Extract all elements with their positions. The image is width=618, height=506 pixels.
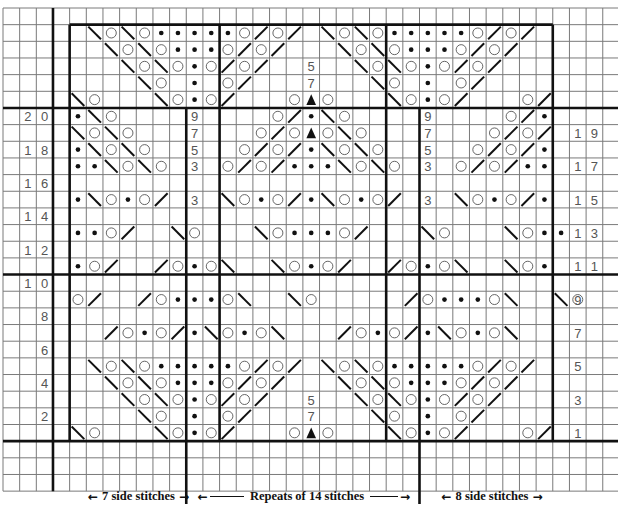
left-slant-decrease-icon [322,27,335,40]
left-slant-decrease-icon [72,127,85,140]
yarn-over-icon [106,111,116,121]
left-slant-decrease-icon [105,160,118,173]
purl-dot-icon [209,297,214,302]
left-slant-decrease-icon [455,260,468,273]
purl-dot-icon [475,297,480,302]
row-number-label: 5 [574,359,581,374]
right-slant-decrease-icon [238,43,251,56]
yarn-over-icon [140,195,150,205]
yarn-over-icon [340,228,350,238]
purl-dot-icon [309,197,314,202]
yarn-over-icon [439,61,449,71]
repeat-marker-number: 3 [191,193,198,208]
purl-dot-icon [409,31,414,36]
yarn-over-icon [323,95,333,105]
knitting-chart: 5799775533335720181614121086421917151311… [0,0,618,506]
yarn-over-icon [256,328,266,338]
right-slant-decrease-icon [272,127,285,140]
purl-dot-icon [425,397,430,402]
purl-dot-icon [326,231,331,236]
yarn-over-icon [140,145,150,155]
left-slant-decrease-icon [222,260,235,273]
left-slant-decrease-icon [72,93,85,106]
row-number-label: 1 [574,126,581,141]
yarn-over-icon [506,195,516,205]
repeat-marker-number: 5 [308,393,315,408]
right-slant-decrease-icon [488,60,501,73]
yarn-over-icon [140,28,150,38]
right-slant-decrease-icon [255,393,268,406]
yarn-over-icon [123,161,133,171]
row-number-label: 1 [24,243,31,258]
right-slant-decrease-icon [505,127,518,140]
yarn-over-icon [156,378,166,388]
yarn-over-icon [489,295,499,305]
right-slant-decrease-icon [288,27,301,40]
arrow-shaft [370,496,398,497]
yarn-over-icon [156,78,166,88]
yarn-over-icon [473,195,483,205]
right-slant-decrease-icon [222,93,235,106]
yarn-over-icon [240,145,250,155]
right-slant-decrease-icon [105,327,118,340]
purl-dot-icon [442,381,447,386]
right-slant-decrease-icon [88,293,101,306]
right-slant-decrease-icon [521,110,534,123]
left-slant-decrease-icon [272,327,285,340]
right-slant-decrease-icon [471,160,484,173]
yarn-over-icon [206,261,216,271]
purl-dot-icon [226,364,231,369]
right-slant-decrease-icon [521,143,534,156]
arrow-right-icon: → [179,490,189,504]
right-slant-decrease-icon [538,93,551,106]
row-number-label: 2 [41,409,48,424]
row-number-label: 2 [41,243,48,258]
right-slant-decrease-icon [222,427,235,440]
left-slant-decrease-icon [138,160,151,173]
row-number-label: 7 [574,326,581,341]
left-slant-decrease-icon [322,110,335,123]
yarn-over-icon [290,428,300,438]
yarn-over-icon [273,28,283,38]
right-slant-decrease-icon [488,393,501,406]
right-slant-decrease-icon [155,260,168,273]
right-slant-decrease-icon [488,360,501,373]
row-number-label: 0 [41,276,48,291]
left-slant-decrease-icon [388,427,401,440]
left-slant-decrease-icon [322,360,335,373]
left-slant-decrease-icon [505,327,518,340]
left-slant-decrease-icon [338,377,351,390]
right-slant-decrease-icon [288,110,301,123]
yarn-over-icon [206,61,216,71]
right-slant-decrease-icon [172,327,185,340]
arrow-left-icon: ← [441,490,451,504]
purl-dot-icon [542,164,547,169]
left-slant-decrease-icon [355,393,368,406]
row-number-label: 1 [24,176,31,191]
yarn-over-icon [156,328,166,338]
left-slant-decrease-icon [555,293,568,306]
arrow-right-icon: → [400,490,410,504]
left-slant-decrease-icon [122,360,135,373]
row-number-label: 9 [574,293,581,308]
yarn-over-icon [190,228,200,238]
caption-side-stitches-right: ← 8 side stitches → [422,487,562,506]
right-slant-decrease-icon [222,60,235,73]
purl-dot-icon [209,31,214,36]
repeat-marker-number: 9 [191,109,198,124]
purl-dot-icon [209,381,214,386]
yarn-over-icon [106,361,116,371]
triangle-decrease-icon [306,94,316,105]
left-slant-decrease-icon [388,60,401,73]
yarn-over-icon [140,361,150,371]
row-number-label: 1 [574,226,581,241]
purl-dot-icon [376,331,381,336]
right-slant-decrease-icon [255,27,268,40]
right-slant-decrease-icon [272,160,285,173]
yarn-over-icon [390,78,400,88]
row-number-label: 4 [41,209,48,224]
yarn-over-icon [456,161,466,171]
row-number-label: 6 [41,343,48,358]
purl-dot-icon [409,47,414,52]
yarn-over-icon [390,161,400,171]
